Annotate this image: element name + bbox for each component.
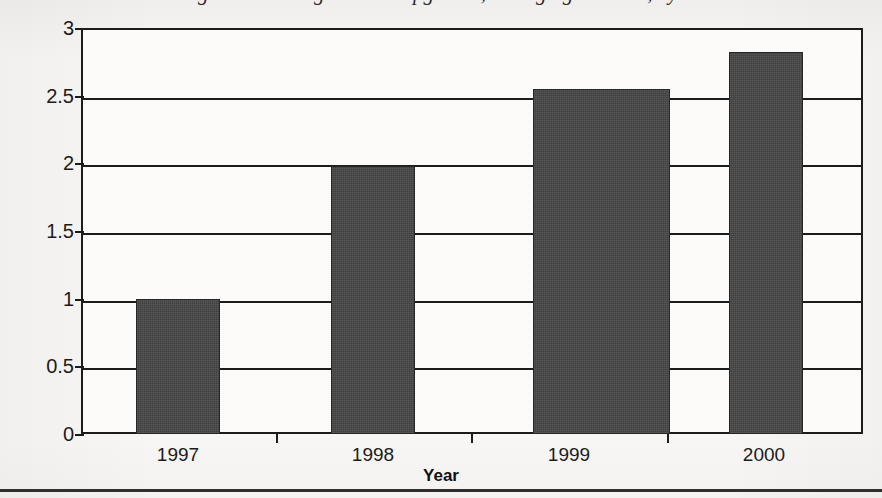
xtick-label-2000: 2000 — [694, 445, 834, 464]
xtick-mark-1 — [276, 434, 278, 443]
bar-chart: 3 2.5 2 1.5 1 0.5 0 1997 1998 1999 2000 … — [0, 0, 882, 498]
x-axis-label: Year — [0, 466, 882, 486]
xtick-mark-3 — [667, 434, 669, 443]
y-axis-tick-labels: 3 2.5 2 1.5 1 0.5 0 — [8, 0, 74, 498]
ytick-mark-0 — [75, 434, 84, 436]
xtick-mark-2 — [471, 434, 473, 443]
ytick-mark-1 — [75, 299, 84, 301]
ytick-mark-0-5 — [75, 366, 84, 368]
ytick-label-0-5: 0.5 — [16, 356, 74, 376]
ytick-label-3: 3 — [16, 18, 74, 38]
ytick-label-1: 1 — [16, 289, 74, 309]
ytick-mark-3 — [75, 28, 84, 30]
ytick-label-1-5: 1.5 — [16, 221, 74, 241]
ytick-label-0: 0 — [16, 424, 74, 444]
xtick-label-1997: 1997 — [108, 445, 248, 464]
xtick-label-1998: 1998 — [303, 445, 443, 464]
xtick-label-1999: 1999 — [499, 445, 639, 464]
ytick-label-2-5: 2.5 — [16, 86, 74, 106]
page-footer-rule — [0, 489, 882, 492]
ytick-mark-2 — [75, 163, 84, 165]
ytick-mark-1-5 — [75, 231, 84, 233]
ytick-label-2: 2 — [16, 153, 74, 173]
bar-2000 — [729, 52, 803, 434]
ytick-mark-2-5 — [75, 96, 84, 98]
bar-1997 — [136, 299, 220, 434]
bar-1999 — [533, 89, 670, 434]
bar-1998 — [331, 166, 415, 434]
bars-layer — [81, 28, 863, 434]
